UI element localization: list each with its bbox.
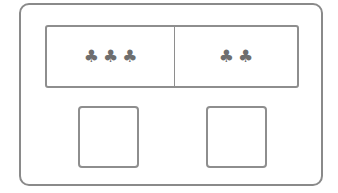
group-left: ♣ ♣ ♣ <box>47 27 175 86</box>
club-icon: ♣ <box>238 48 253 65</box>
group-right: ♣ ♣ <box>175 27 297 86</box>
answer-slot-left[interactable] <box>78 106 139 168</box>
answer-slot-right[interactable] <box>206 106 267 168</box>
club-icon: ♣ <box>219 48 234 65</box>
club-icon: ♣ <box>84 48 99 65</box>
symbol-groups-bar: ♣ ♣ ♣ ♣ ♣ <box>45 25 299 88</box>
club-icon: ♣ <box>122 48 137 65</box>
club-icon: ♣ <box>103 48 118 65</box>
